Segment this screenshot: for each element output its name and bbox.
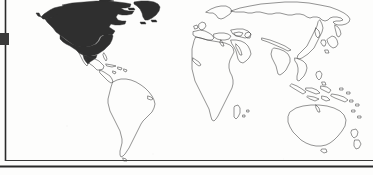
region-pacific-islands [340,88,361,118]
region-east-asia-coast [297,20,323,59]
region-greenland [134,1,160,20]
world-map-figure [0,0,373,175]
region-new-guinea [331,94,348,102]
region-new-zealand [351,129,361,149]
region-india [271,48,290,75]
region-caribbean-islands [106,64,127,74]
region-korea [321,40,326,46]
region-south-america [108,79,155,157]
region-red-sea-detail [236,44,242,55]
region-australia [288,105,346,146]
region-group-highlighted [36,0,160,64]
region-mexico-filled [83,55,97,64]
region-black-sea [234,32,243,36]
region-africa [192,37,234,121]
region-philippines [316,71,326,85]
region-indochina [295,58,307,81]
region-madagascar [234,105,240,119]
region-group-outline-americas [79,53,155,161]
region-central-asia-interior [262,38,291,51]
region-siberian-coast [231,2,350,25]
region-group-outline-eurafrica [192,6,251,121]
region-indonesia [290,84,331,101]
region-florida [103,53,107,61]
region-kamchatka [335,25,341,37]
region-eastern-europe [231,29,251,38]
region-central-america [100,70,113,83]
region-scandinavia [206,6,232,19]
region-british-isles [194,22,206,30]
region-group-outline-oceania [288,105,361,153]
region-japan [325,36,338,53]
left-edge-tab-marker [0,33,9,45]
world-map-canvas [0,0,373,175]
region-west-africa-accent [193,58,201,66]
region-western-europe [193,30,214,40]
region-southern-europe [214,33,231,46]
region-sea-of-japan [315,28,320,38]
region-indian-ocean-islets [243,110,249,117]
region-cape-york [316,105,320,112]
region-group-outline-asia [231,2,361,118]
region-tasmania [321,149,327,153]
